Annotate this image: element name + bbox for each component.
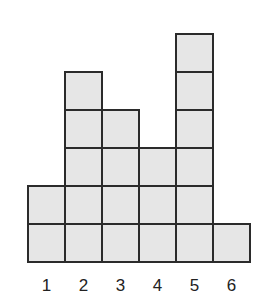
unit-square: [139, 186, 176, 224]
bar-column-1: [28, 186, 65, 262]
unit-square: [102, 110, 139, 148]
x-tick-label: 1: [42, 276, 51, 295]
x-tick-label: 3: [116, 276, 125, 295]
unit-square: [102, 148, 139, 186]
unit-square: [176, 34, 213, 72]
x-axis-labels: 123456: [42, 276, 236, 295]
unit-square: [176, 186, 213, 224]
unit-square-bar-chart: 123456: [0, 0, 263, 303]
bar-column-2: [65, 72, 102, 262]
unit-square: [28, 224, 65, 262]
unit-square: [65, 186, 102, 224]
unit-square: [213, 224, 250, 262]
unit-square: [65, 148, 102, 186]
bars: [28, 34, 250, 262]
unit-square: [28, 186, 65, 224]
unit-square: [65, 72, 102, 110]
x-tick-label: 6: [227, 276, 236, 295]
unit-square: [139, 224, 176, 262]
unit-square: [176, 110, 213, 148]
x-tick-label: 4: [153, 276, 162, 295]
bar-column-6: [213, 224, 250, 262]
unit-square: [102, 224, 139, 262]
bar-column-5: [176, 34, 213, 262]
unit-square: [65, 110, 102, 148]
unit-square: [176, 72, 213, 110]
bar-column-4: [139, 148, 176, 262]
unit-square: [65, 224, 102, 262]
unit-square: [176, 224, 213, 262]
unit-square: [139, 148, 176, 186]
unit-square: [102, 186, 139, 224]
x-tick-label: 5: [190, 276, 199, 295]
unit-square: [176, 148, 213, 186]
bar-column-3: [102, 110, 139, 262]
x-tick-label: 2: [79, 276, 88, 295]
